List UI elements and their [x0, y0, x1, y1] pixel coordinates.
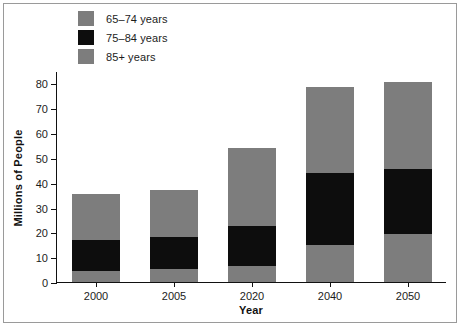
bar-segment: [72, 240, 120, 271]
x-axis-tick-label: 2040: [318, 290, 342, 302]
y-axis-tick: [51, 159, 57, 160]
y-axis-tick-label: 40: [36, 178, 48, 190]
y-axis-tick: [51, 109, 57, 110]
y-axis-title: Millions of People: [10, 72, 26, 283]
plot-area: 0102030405060708020002005202020402050: [56, 72, 446, 283]
bar-stack: [384, 82, 432, 282]
bar-stack: [72, 194, 120, 282]
bar-segment: [228, 266, 276, 282]
bar-segment: [306, 173, 354, 245]
y-axis-tick-label: 20: [36, 227, 48, 239]
chart-legend: 65–74 years75–84 years85+ years: [78, 9, 268, 66]
y-axis-tick-label: 70: [36, 103, 48, 115]
y-axis-tick: [51, 209, 57, 210]
bar-segment: [228, 148, 276, 226]
bar-segment: [150, 269, 198, 282]
x-axis-tick: [96, 282, 97, 287]
bar-segment: [384, 234, 432, 282]
x-axis-tick: [252, 282, 253, 287]
legend-item-label: 85+ years: [106, 51, 156, 63]
bar-stack: [150, 190, 198, 282]
y-axis-tick: [51, 283, 57, 284]
x-axis-tick-label: 2005: [162, 290, 186, 302]
x-axis-tick-label: 2020: [240, 290, 264, 302]
y-axis-tick-label: 10: [36, 252, 48, 264]
legend-swatch-65-74: [78, 11, 94, 26]
y-axis-tick-label: 80: [36, 78, 48, 90]
x-axis-tick: [330, 282, 331, 287]
bar-segment: [306, 245, 354, 282]
x-axis-tick-label: 2050: [396, 290, 420, 302]
legend-swatch-75-84: [78, 30, 94, 45]
legend-item: 85+ years: [78, 47, 268, 66]
figure-container: 65–74 years75–84 years85+ years Millions…: [0, 0, 460, 326]
x-axis-tick: [408, 282, 409, 287]
y-axis-tick: [51, 233, 57, 234]
bar-segment: [384, 169, 432, 234]
y-axis-tick-label: 0: [42, 277, 48, 289]
bar-segment: [72, 194, 120, 240]
y-axis-tick: [51, 84, 57, 85]
y-axis-tick-label: 50: [36, 153, 48, 165]
x-axis-title: Year: [56, 304, 446, 316]
bar-stack: [228, 148, 276, 282]
y-axis-title-label: Millions of People: [12, 129, 24, 226]
bar-segment: [384, 82, 432, 169]
x-axis-tick-label: 2000: [84, 290, 108, 302]
x-axis-tick: [174, 282, 175, 287]
bar-segment: [150, 237, 198, 269]
y-axis-tick: [51, 184, 57, 185]
legend-item-label: 65–74 years: [106, 13, 168, 25]
y-axis-tick-label: 30: [36, 203, 48, 215]
y-axis-tick: [51, 258, 57, 259]
legend-item: 65–74 years: [78, 9, 268, 28]
bar-segment: [306, 87, 354, 173]
bar-segment: [150, 190, 198, 237]
plot-inner: 0102030405060708020002005202020402050: [57, 72, 446, 282]
bar-stack: [306, 87, 354, 282]
y-axis-tick: [51, 134, 57, 135]
legend-swatch-85-plus: [78, 49, 94, 64]
bar-segment: [228, 226, 276, 266]
y-axis-tick-label: 60: [36, 128, 48, 140]
bar-segment: [72, 271, 120, 282]
legend-item-label: 75–84 years: [106, 32, 168, 44]
legend-item: 75–84 years: [78, 28, 268, 47]
